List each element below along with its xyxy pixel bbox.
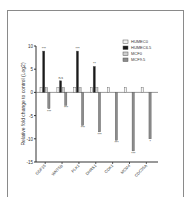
bar-humec6-5 xyxy=(93,66,95,92)
y-tick-label: 5 xyxy=(30,67,33,72)
significance-label: *** xyxy=(47,110,52,114)
bar-humec0 xyxy=(74,88,76,93)
legend-label: HUMEC6.5 xyxy=(131,45,152,50)
bar-mcf9-5 xyxy=(82,92,84,125)
legend-swatch xyxy=(123,46,128,50)
bar-mcf0 xyxy=(45,88,47,93)
significance-label: *** xyxy=(76,47,81,51)
y-tick-label: 0 xyxy=(30,90,33,95)
significance-label: *** xyxy=(81,126,86,130)
bar-mcf0 xyxy=(79,88,81,93)
bar-mcf0 xyxy=(96,88,98,93)
bar-mcf9-5 xyxy=(65,92,67,105)
significance-label: *** xyxy=(64,106,69,110)
significance-label: * xyxy=(150,140,152,144)
bar-mcf9-5 xyxy=(48,92,50,108)
x-tick-label: CDC25A xyxy=(133,163,148,178)
bar-humec6-5 xyxy=(59,81,61,93)
significance-label: *** xyxy=(114,141,119,145)
significance-label: ** xyxy=(93,62,96,66)
bar-mcf9-5 xyxy=(132,92,134,150)
bar-mcf9-5 xyxy=(115,92,117,140)
bar-mcf0 xyxy=(62,88,64,93)
y-tick-label: -15 xyxy=(26,160,33,165)
bar-chart: 1050-5-10-15Relative fold change to cont… xyxy=(0,0,189,197)
legend-label: HUMEC0 xyxy=(131,39,149,44)
y-axis-label: Relative fold change to control (Log2) xyxy=(20,62,26,145)
x-tick-label: WNT5B xyxy=(50,163,64,177)
y-tick-label: -10 xyxy=(26,137,33,142)
bar-mcf9-5 xyxy=(149,92,151,138)
bar-humec0 xyxy=(91,88,93,93)
legend-label: MCF9.5 xyxy=(131,57,146,62)
x-tick-label: CDK1 xyxy=(103,163,115,175)
x-tick-label: MCM4 xyxy=(119,163,131,175)
legend-swatch xyxy=(123,40,128,44)
significance-label: *** xyxy=(42,47,47,51)
bar-humec0 xyxy=(124,88,126,93)
bar-humec0 xyxy=(40,88,42,93)
x-tick-label: GDF15 xyxy=(34,163,47,176)
legend-swatch xyxy=(123,52,128,56)
x-tick-label: DHRS1 xyxy=(84,163,98,177)
bar-humec0 xyxy=(57,88,59,93)
bar-humec0 xyxy=(107,88,109,93)
legend-swatch xyxy=(123,58,128,62)
y-tick-label: 10 xyxy=(28,44,34,49)
significance-label: *** xyxy=(131,152,136,156)
x-tick-label: PLK1 xyxy=(70,163,81,174)
significance-label: *** xyxy=(98,133,103,137)
bar-humec0 xyxy=(141,88,143,93)
y-tick-label: -5 xyxy=(29,114,33,119)
bar-humec6-5 xyxy=(76,51,78,92)
legend-label: MCF0 xyxy=(131,51,143,56)
bar-humec6-5 xyxy=(43,51,45,92)
bar-mcf9-5 xyxy=(98,92,100,131)
significance-label: n.s xyxy=(58,76,63,80)
